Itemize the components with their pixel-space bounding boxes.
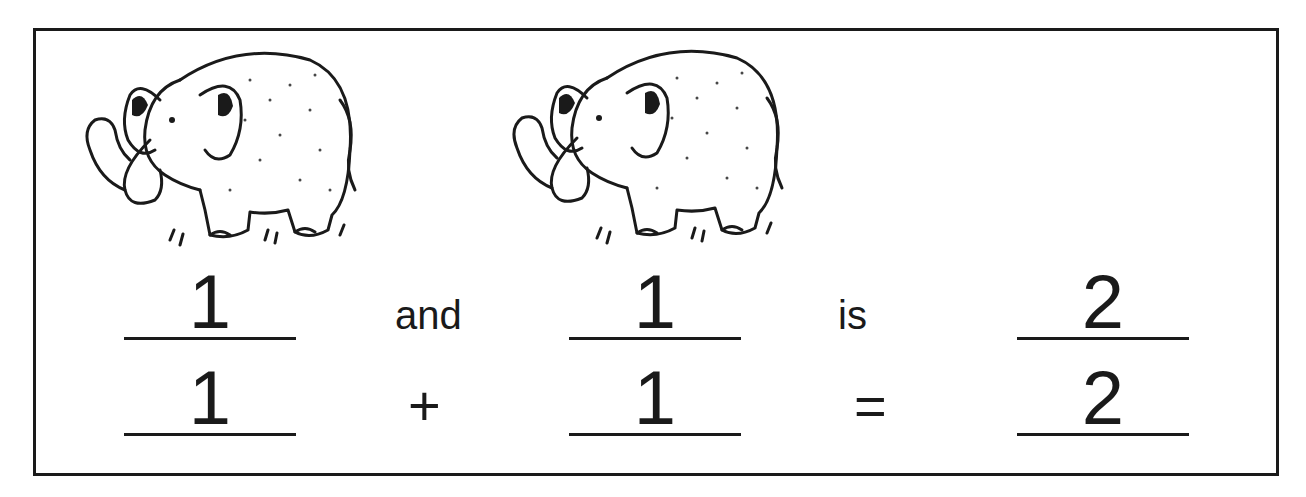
number-total: 2 xyxy=(1017,360,1189,436)
word-verb: is xyxy=(838,295,867,335)
equals-sign: = xyxy=(854,378,887,434)
elephant-illustration-1 xyxy=(70,40,360,260)
number-addend1: 1 xyxy=(124,360,296,436)
elephant-illustration-2 xyxy=(497,38,787,258)
answer-line-number-addend1 xyxy=(124,433,296,436)
plus-sign: + xyxy=(408,378,441,434)
word-addend2: 1 xyxy=(569,264,741,340)
answer-line-word-addend2 xyxy=(569,337,741,340)
word-addend1: 1 xyxy=(124,264,296,340)
answer-line-number-total xyxy=(1017,433,1189,436)
answer-line-word-addend1 xyxy=(124,337,296,340)
word-connector: and xyxy=(395,295,462,335)
answer-line-word-total xyxy=(1017,337,1189,340)
word-total: 2 xyxy=(1017,264,1189,340)
answer-line-number-addend2 xyxy=(569,433,741,436)
number-addend2: 1 xyxy=(569,360,741,436)
